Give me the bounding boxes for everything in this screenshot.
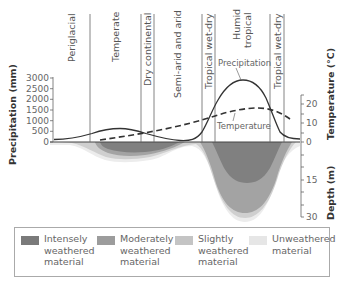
weathering-profile: [50, 142, 300, 222]
left-tick-2500: 2500: [26, 84, 49, 94]
right-tick-0: 0: [306, 137, 312, 147]
left-tick-1000: 1000: [26, 116, 49, 126]
precipitation-label: Precipitation: [218, 58, 271, 68]
precipitation-leader: [236, 68, 241, 80]
legend-item-unweathered: Unweathered material: [249, 233, 336, 256]
left-tick-3000: 3000: [26, 73, 49, 83]
temperature-label: Temperature: [216, 121, 271, 131]
legend-item-slightly: Slightly weathered material: [175, 233, 249, 268]
legend-swatch-unweathered: [249, 236, 267, 245]
legend-swatch-moderately: [97, 236, 115, 245]
legend-label-moderately: Moderately weathered material: [120, 233, 173, 268]
legend-label-intensely: Intensely weathered material: [44, 233, 95, 268]
right-axis: 20 10 0 15 30 Temperature (°C) Depth (m): [301, 48, 336, 222]
zone-label-humid-tropical-2: tropical: [242, 12, 253, 48]
zone-label-semi-arid: Semi-arid and arid: [172, 10, 183, 98]
zone-label-dry-continental: Dry continental: [142, 13, 153, 86]
zone-label-periglacial: Periglacial: [66, 13, 77, 62]
zone-label-temperate: Temperate: [110, 11, 121, 63]
zone-label-tropical-wet-dry-1: Tropical wet-dry: [203, 13, 214, 90]
right-tick-20: 20: [306, 99, 318, 109]
right-tick-15: 15: [306, 175, 317, 185]
zone-label-tropical-wet-dry-2: Tropical wet-dry: [272, 13, 283, 90]
depth-axis-title: Depth (m): [325, 166, 336, 220]
legend: Intensely weathered material Moderately …: [14, 227, 330, 277]
temperature-leader: [233, 113, 235, 121]
left-tick-2000: 2000: [26, 94, 49, 104]
legend-label-unweathered: Unweathered material: [272, 233, 336, 256]
legend-label-slightly: Slightly weathered material: [198, 233, 249, 268]
right-tick-10: 10: [306, 118, 318, 128]
legend-swatch-intensely: [21, 236, 39, 245]
right-tick-30: 30: [306, 212, 318, 222]
left-tick-500: 500: [32, 126, 49, 136]
legend-swatch-slightly: [175, 236, 193, 245]
zone-label-humid-tropical-1: Humid: [231, 9, 242, 40]
legend-item-moderately: Moderately weathered material: [97, 233, 173, 268]
left-tick-0: 0: [43, 137, 49, 147]
zone-labels: Periglacial Temperate Dry continental Se…: [66, 9, 283, 98]
legend-item-intensely: Intensely weathered material: [21, 233, 95, 268]
left-axis-title: Precipitation (mm): [7, 64, 18, 165]
left-axis: 3000 2500 2000 1500 1000 500 0 Precipita…: [7, 64, 53, 165]
left-tick-1500: 1500: [26, 105, 49, 115]
temperature-axis-title: Temperature (°C): [325, 48, 336, 140]
intensely-weathered-layer: [100, 142, 282, 183]
